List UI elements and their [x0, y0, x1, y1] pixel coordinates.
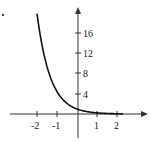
y-tick-labels: 16 12 8 4	[83, 28, 93, 100]
stray-dot	[2, 14, 4, 16]
y-tick-label: 8	[83, 68, 88, 79]
y-tick-label: 4	[83, 89, 88, 100]
y-axis-arrow-icon	[75, 7, 81, 14]
y-tick-label: 16	[83, 28, 93, 39]
x-tick-label: 2	[114, 120, 119, 131]
x-tick-label: -1	[52, 120, 60, 131]
y-tick-label: 12	[83, 48, 93, 59]
chart: -2 -1 1 2 16 12 8 4	[0, 0, 153, 143]
x-tick-labels: -2 -1 1 2	[31, 120, 119, 131]
x-axis-arrow-icon	[141, 111, 148, 117]
exponential-curve	[37, 14, 123, 114]
x-tick-label: 1	[94, 120, 99, 131]
x-tick-label: -2	[31, 120, 39, 131]
